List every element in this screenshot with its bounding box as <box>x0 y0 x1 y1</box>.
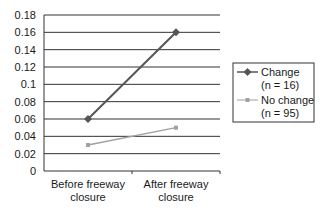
y-tick-label: 0.08 <box>15 96 36 108</box>
y-tick-label: 0.06 <box>15 113 36 125</box>
square-marker-icon <box>246 98 250 102</box>
line-chart: 00.020.040.060.080.10.120.140.160.18Befo… <box>0 0 327 211</box>
y-tick-label: 0.14 <box>15 44 36 56</box>
x-tick-label: After freeway <box>144 178 209 190</box>
legend: Change(n = 16)No change(n = 95) <box>233 63 314 122</box>
gridlines <box>44 15 220 154</box>
series-line <box>88 32 176 119</box>
legend-label: (n = 95) <box>261 107 299 119</box>
legend-label: (n = 16) <box>261 79 299 91</box>
y-tick-label: 0.02 <box>15 148 36 160</box>
y-tick-label: 0 <box>30 165 36 177</box>
x-tick-label: closure <box>70 191 105 203</box>
legend-label: No change <box>261 94 314 106</box>
y-tick-label: 0.1 <box>21 78 36 90</box>
x-axis: Before freewayclosureAfter freewayclosur… <box>51 178 209 203</box>
x-tick-label: Before freeway <box>51 178 125 190</box>
x-tick-label: closure <box>158 191 193 203</box>
square-marker-icon <box>86 143 90 147</box>
series-change <box>84 28 180 123</box>
y-tick-label: 0.12 <box>15 61 36 73</box>
legend-label: Change <box>261 66 300 78</box>
square-marker-icon <box>174 126 178 130</box>
y-tick-label: 0.16 <box>15 26 36 38</box>
y-tick-label: 0.18 <box>15 9 36 21</box>
y-tick-label: 0.04 <box>15 130 36 142</box>
y-axis: 00.020.040.060.080.10.120.140.160.18 <box>15 9 36 177</box>
